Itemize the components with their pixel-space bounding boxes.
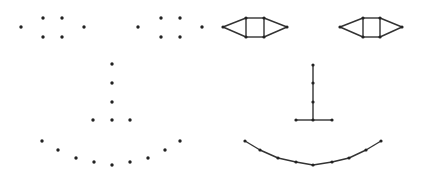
points-only-face-node: [159, 16, 162, 19]
connected-graph-face-node: [244, 35, 247, 38]
points-only-face-node: [200, 25, 203, 28]
points-only-face-node: [178, 35, 181, 38]
points-only-face-node: [136, 25, 139, 28]
points-only-face-node: [110, 62, 113, 65]
points-only-face-node: [56, 148, 59, 151]
connected-graph-face-node: [338, 25, 341, 28]
connected-graph-face-edge: [380, 18, 402, 27]
points-only-face-node: [74, 156, 77, 159]
connected-graph-face-node: [311, 81, 314, 84]
points-only-face-node: [128, 118, 131, 121]
graph-nodes: [19, 16, 403, 166]
connected-graph-face-edge: [340, 27, 363, 37]
points-only-face-node: [60, 35, 63, 38]
connected-graph-face-node: [378, 16, 381, 19]
points-only-face-node: [178, 139, 181, 142]
connected-graph-face-node: [379, 139, 382, 142]
connected-graph-face-node: [285, 25, 288, 28]
connected-graph-face-edge: [278, 158, 296, 162]
connected-graph-face-node: [243, 139, 246, 142]
connected-graph-face-node: [361, 35, 364, 38]
points-only-face-node: [41, 16, 44, 19]
connected-graph-face-edge: [349, 150, 366, 158]
points-only-face-node: [110, 163, 113, 166]
points-only-face-node: [82, 25, 85, 28]
connected-graph-face-node: [400, 25, 403, 28]
connected-graph-face-edge: [340, 18, 363, 27]
points-only-face-node: [19, 25, 22, 28]
connected-graph-face-edge: [264, 27, 287, 37]
connected-graph-face-node: [364, 148, 367, 151]
connected-graph-face-edge: [380, 27, 402, 37]
points-only-face-node: [110, 100, 113, 103]
connected-graph-face-node: [276, 156, 279, 159]
connected-graph-face-node: [262, 35, 265, 38]
connected-graph-face-edge: [260, 150, 278, 158]
points-only-face-node: [91, 118, 94, 121]
connected-graph-face-node: [311, 63, 314, 66]
points-only-face-node: [110, 81, 113, 84]
points-only-face-node: [60, 16, 63, 19]
connected-graph-face-edge: [264, 18, 287, 27]
points-only-face-node: [163, 148, 166, 151]
connected-graph-face-node: [311, 163, 314, 166]
connected-graph-face-edge: [332, 158, 349, 162]
connected-graph-face-node: [221, 25, 224, 28]
points-only-face-node: [40, 139, 43, 142]
connected-graph-face-node: [258, 148, 261, 151]
connected-graph-face-node: [378, 35, 381, 38]
graph-edges: [223, 18, 402, 165]
points-only-face-node: [159, 35, 162, 38]
connected-graph-face-node: [262, 16, 265, 19]
connected-graph-face-edge: [223, 27, 246, 37]
connected-graph-face-node: [311, 118, 314, 121]
connected-graph-face-edge: [313, 162, 332, 165]
connected-graph-face-edge: [245, 141, 260, 150]
points-only-face-node: [146, 156, 149, 159]
points-only-face-node: [41, 35, 44, 38]
points-only-face-node: [110, 118, 113, 121]
connected-graph-face-node: [294, 118, 297, 121]
connected-graph-face-node: [294, 160, 297, 163]
points-only-face-node: [178, 16, 181, 19]
connected-graph-face-edge: [223, 18, 246, 27]
points-only-face-node: [128, 160, 131, 163]
connected-graph-face-edge: [296, 162, 313, 165]
connected-graph-face-node: [330, 160, 333, 163]
connected-graph-face-node: [361, 16, 364, 19]
connected-graph-face-node: [244, 16, 247, 19]
face-graph-diagram: [0, 0, 422, 174]
connected-graph-face-node: [347, 156, 350, 159]
points-only-face-node: [92, 160, 95, 163]
connected-graph-face-node: [311, 100, 314, 103]
connected-graph-face-edge: [366, 141, 381, 150]
connected-graph-face-node: [330, 118, 333, 121]
